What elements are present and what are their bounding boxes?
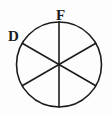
circle-sector-diagram: D F: [0, 0, 111, 115]
point-label-d: D: [8, 29, 19, 44]
point-label-f: F: [56, 8, 65, 23]
